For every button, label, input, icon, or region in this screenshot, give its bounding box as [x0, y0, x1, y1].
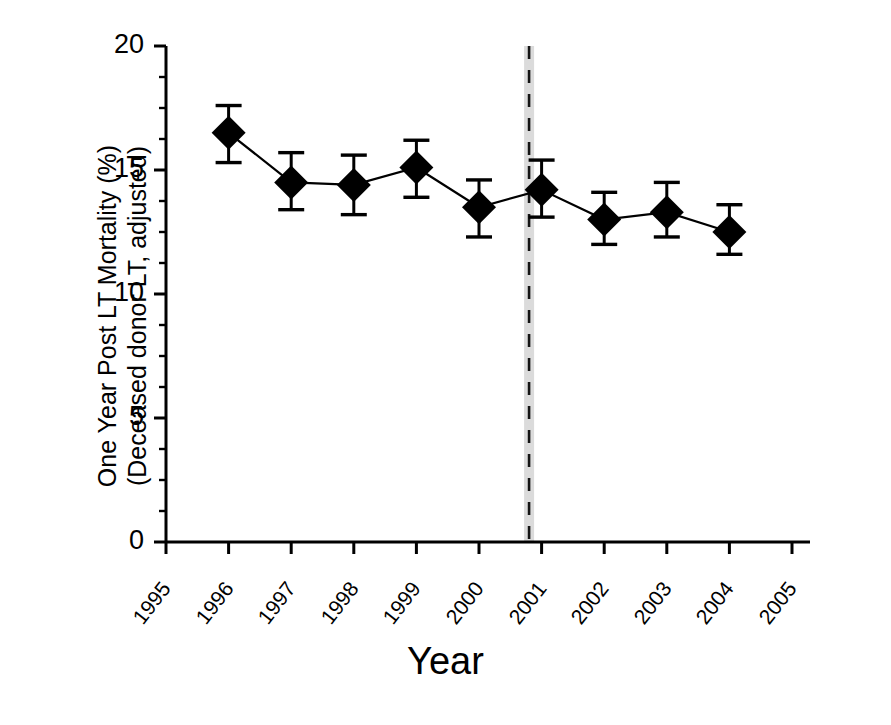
y-axis-title-line2: (Deceased donor LT, adjusted) [122, 56, 152, 576]
data-point-marker[interactable] [462, 190, 496, 224]
data-point-marker[interactable] [650, 195, 684, 229]
y-tick-label: 0 [84, 525, 144, 556]
data-point-marker[interactable] [274, 165, 308, 199]
data-point-marker[interactable] [337, 168, 371, 202]
x-axis-title: Year [0, 640, 891, 683]
y-tick-label: 20 [84, 29, 144, 60]
chart-figure: One Year Post LT Mortality (%) (Deceased… [0, 0, 891, 725]
data-point-marker[interactable] [399, 151, 433, 185]
y-tick-label: 5 [84, 401, 144, 432]
data-point-marker[interactable] [212, 116, 246, 150]
data-point-marker[interactable] [587, 203, 621, 237]
data-point-marker[interactable] [712, 215, 746, 249]
y-axis-title: One Year Post LT Mortality (%) (Deceased… [92, 56, 152, 576]
y-tick-label: 15 [84, 153, 144, 184]
y-axis-title-line1: One Year Post LT Mortality (%) [92, 56, 122, 576]
y-tick-label: 10 [84, 277, 144, 308]
